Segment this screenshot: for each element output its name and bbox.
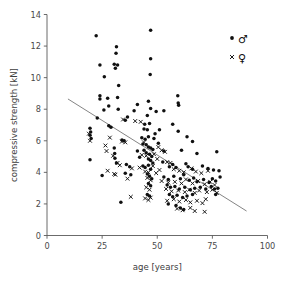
data-point-male (167, 178, 171, 182)
data-point-male (102, 108, 106, 112)
legend-marker-male (230, 36, 234, 40)
data-point-male (146, 114, 150, 118)
data-point-male (144, 151, 148, 155)
data-point-male (151, 148, 155, 152)
data-point-male (162, 175, 166, 179)
data-point-female (203, 210, 207, 214)
data-point-female (139, 120, 143, 124)
data-point-female (111, 154, 115, 158)
data-point-female (143, 170, 147, 174)
data-point-male (151, 161, 155, 165)
data-point-female (156, 145, 160, 149)
data-point-female (172, 167, 176, 171)
data-point-male (149, 107, 153, 111)
regression-line (68, 99, 247, 211)
data-point-male (218, 175, 222, 179)
data-point-male (149, 184, 153, 188)
data-point-female (140, 153, 144, 157)
data-point-male (143, 166, 147, 170)
data-point-female (108, 136, 112, 140)
data-point-male (162, 109, 166, 113)
data-point-female (129, 195, 133, 199)
data-point-female (199, 171, 203, 175)
data-point-male (98, 63, 102, 67)
data-point-male (214, 179, 218, 183)
data-point-male (117, 84, 121, 88)
legend-label-female: ♀ (238, 52, 246, 65)
data-point-male (193, 186, 197, 190)
data-point-male (106, 96, 110, 100)
data-points-group (87, 29, 222, 214)
data-point-female (144, 185, 148, 189)
data-point-male (176, 130, 180, 134)
data-point-male (185, 135, 189, 139)
data-point-male (176, 94, 180, 98)
data-point-male (116, 107, 120, 111)
data-point-female (133, 119, 137, 123)
data-point-female (184, 178, 188, 182)
data-point-male (132, 109, 136, 113)
data-point-male (215, 150, 219, 154)
data-point-female (204, 197, 208, 201)
data-point-male (147, 135, 151, 139)
data-point-male (211, 177, 215, 181)
data-point-female (155, 157, 159, 161)
data-point-female (158, 168, 162, 172)
data-point-female (195, 199, 199, 203)
data-point-male (199, 186, 203, 190)
data-point-male (107, 104, 111, 108)
data-point-male (201, 164, 205, 168)
data-point-male (114, 66, 118, 70)
y-tick-label: 14 (31, 10, 41, 20)
y-tick-label: 6 (36, 136, 41, 146)
data-point-male (96, 116, 100, 120)
data-point-male (174, 204, 178, 208)
data-point-female (197, 189, 201, 193)
data-point-male (146, 128, 150, 132)
data-point-male (143, 122, 147, 126)
y-tick-label: 4 (36, 167, 41, 177)
data-point-male (172, 175, 176, 179)
data-point-female (177, 169, 181, 173)
data-point-male (149, 29, 153, 33)
x-tick-label: 25 (97, 241, 107, 251)
data-point-female (148, 188, 152, 192)
scatter-chart-figure: 024681012140255075100 ♂♀ age [years]comp… (0, 0, 293, 289)
data-point-female (180, 182, 184, 186)
data-point-male (119, 201, 123, 205)
data-point-male (124, 171, 128, 175)
y-tick-label: 12 (31, 41, 41, 51)
data-point-male (191, 140, 195, 144)
data-point-male (168, 165, 172, 169)
data-point-male (125, 163, 129, 167)
data-point-female (126, 177, 130, 181)
data-point-female (170, 189, 174, 193)
data-point-female (104, 144, 108, 148)
y-tick-label: 10 (31, 73, 41, 83)
y-tick-label: 2 (36, 199, 41, 209)
data-point-female (145, 176, 149, 180)
data-point-male (180, 149, 184, 153)
data-point-male (140, 136, 144, 140)
data-point-male (129, 173, 133, 177)
data-point-male (202, 178, 206, 182)
data-point-male (109, 126, 113, 129)
x-tick-label: 75 (207, 241, 217, 251)
data-point-female (193, 191, 197, 195)
data-point-female (183, 190, 187, 194)
data-point-male (212, 168, 216, 172)
x-tick-label: 0 (44, 241, 49, 251)
data-point-female (105, 149, 109, 153)
data-point-female (184, 198, 188, 202)
chart-legend: ♂♀ (230, 33, 248, 65)
data-point-male (126, 115, 130, 119)
data-point-female (175, 207, 179, 211)
chart-canvas: 024681012140255075100 ♂♀ age [years]comp… (0, 0, 293, 289)
data-point-male (143, 137, 147, 141)
data-point-male (152, 137, 156, 141)
data-point-male (179, 177, 183, 181)
x-tick-label: 50 (152, 241, 162, 251)
data-point-male (142, 127, 146, 131)
data-point-female (177, 200, 181, 204)
data-point-male (116, 63, 120, 67)
